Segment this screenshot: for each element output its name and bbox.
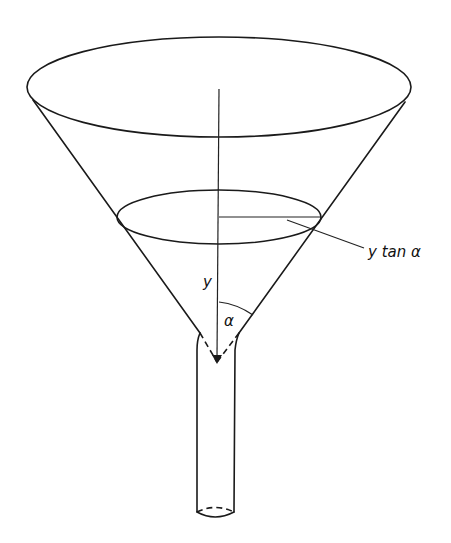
funnel-diagram: y tan α y α bbox=[0, 0, 451, 543]
radius-label: y tan α bbox=[367, 243, 421, 261]
stem-right-wall bbox=[234, 333, 239, 512]
stem-opening-back bbox=[197, 508, 234, 513]
apex-arrowhead-icon bbox=[212, 355, 222, 364]
central-axis bbox=[217, 89, 219, 358]
stem-left-wall bbox=[197, 333, 200, 512]
height-label: y bbox=[202, 273, 213, 291]
angle-label: α bbox=[224, 312, 234, 330]
stem-opening-front bbox=[197, 512, 234, 517]
